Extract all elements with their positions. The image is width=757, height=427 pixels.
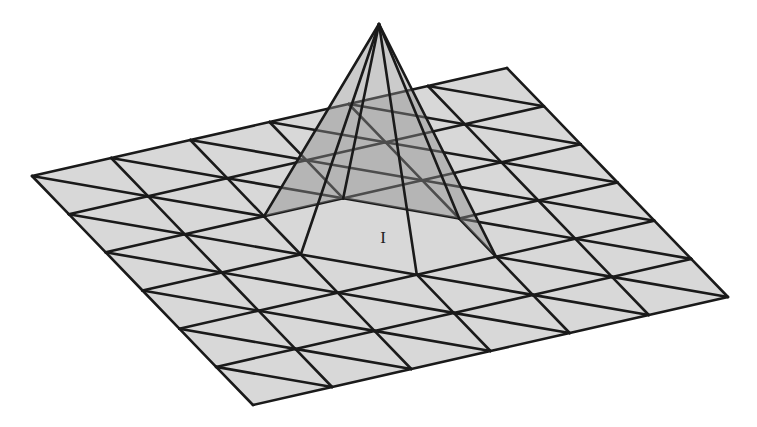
- hat-function-diagram: I: [0, 0, 757, 427]
- node-label-I: I: [380, 228, 386, 247]
